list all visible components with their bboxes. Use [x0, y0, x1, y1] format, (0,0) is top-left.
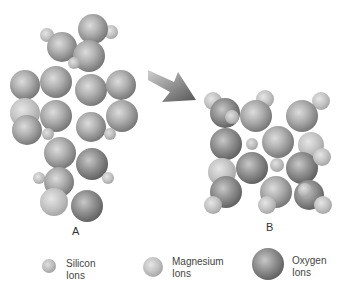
oxygen-ion	[78, 14, 108, 44]
oxygen-ion	[12, 115, 42, 145]
magnesium-ion	[102, 172, 114, 184]
oxygen-ion	[236, 152, 268, 184]
legend-silicon-line2: Ions	[66, 270, 95, 282]
oxygen-ion	[240, 100, 272, 132]
legend-silicon-line1: Silicon	[66, 258, 95, 270]
silicon-ion	[298, 183, 312, 197]
oxygen-ion	[44, 137, 76, 169]
silicon-ion-icon	[42, 259, 56, 273]
oxygen-ion	[71, 190, 103, 222]
oxygen-ion	[106, 70, 136, 100]
magnesium-ion	[40, 188, 68, 216]
oxygen-ion	[10, 70, 40, 100]
legend-oxygen-line2: Ions	[292, 267, 326, 279]
oxygen-ion-icon	[252, 248, 284, 280]
oxygen-ion	[76, 112, 106, 142]
silicon-ion	[104, 128, 116, 140]
legend-magnesium-line2: Ions	[172, 268, 224, 280]
legend-magnesium-label: Magnesium Ions	[172, 256, 224, 280]
magnesium-ion	[314, 196, 332, 214]
legend-oxygen-label: Oxygen Ions	[292, 255, 326, 279]
magnesium-ion-icon	[143, 257, 163, 277]
structure-b-label: B	[266, 221, 273, 233]
magnesium-ion	[204, 196, 222, 214]
oxygen-ion	[40, 100, 72, 132]
legend-magnesium-line1: Magnesium	[172, 256, 224, 268]
oxygen-ion	[262, 126, 294, 158]
legend-oxygen-line1: Oxygen	[292, 255, 326, 267]
legend-silicon-label: Silicon Ions	[66, 258, 95, 282]
oxygen-ion	[40, 66, 72, 98]
structure-a-label: A	[72, 225, 79, 237]
magnesium-ion	[313, 148, 331, 166]
magnesium-ion	[258, 196, 276, 214]
silicon-ion	[270, 158, 284, 172]
silicon-ion	[246, 138, 258, 150]
oxygen-ion	[210, 128, 242, 160]
silicon-ion	[225, 110, 239, 124]
transform-arrow-icon	[148, 60, 200, 106]
oxygen-ion	[286, 100, 318, 132]
oxygen-ion	[75, 74, 107, 106]
silicon-ion	[68, 57, 80, 69]
